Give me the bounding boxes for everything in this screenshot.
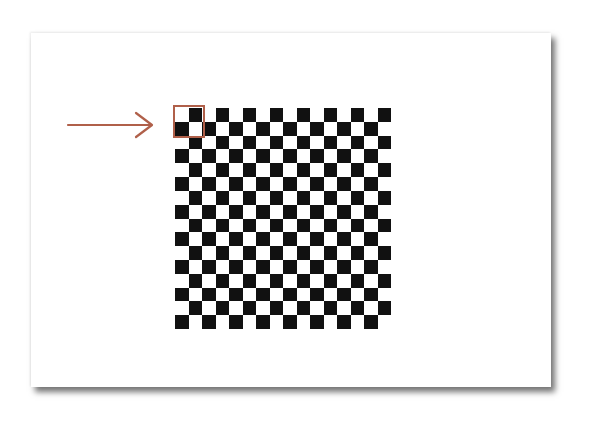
checker-cell	[283, 246, 297, 260]
checker-cell	[189, 177, 203, 191]
checker-cell	[256, 149, 270, 163]
checker-cell	[229, 108, 243, 122]
checker-cell	[216, 288, 230, 302]
checker-cell	[283, 108, 297, 122]
checker-cell	[351, 191, 365, 205]
checker-cell	[351, 288, 365, 302]
checker-cell	[189, 191, 203, 205]
checker-cell	[310, 315, 324, 329]
checker-cell	[202, 122, 216, 136]
checker-cell	[189, 301, 203, 315]
checker-cell	[310, 177, 324, 191]
checker-cell	[378, 301, 392, 315]
checker-cell	[297, 232, 311, 246]
checkerboard-grid	[175, 108, 391, 329]
checker-cell	[270, 274, 284, 288]
checker-cell	[243, 149, 257, 163]
checker-cell	[324, 288, 338, 302]
checker-cell	[364, 136, 378, 150]
checker-cell	[243, 301, 257, 315]
checker-cell	[216, 191, 230, 205]
checker-cell	[175, 191, 189, 205]
checker-cell	[351, 232, 365, 246]
checker-cell	[337, 260, 351, 274]
checker-cell	[297, 288, 311, 302]
checker-cell	[175, 108, 189, 122]
checker-cell	[270, 301, 284, 315]
checker-cell	[351, 149, 365, 163]
checker-cell	[297, 246, 311, 260]
checker-cell	[297, 315, 311, 329]
checker-cell	[337, 288, 351, 302]
checker-cell	[351, 122, 365, 136]
checker-cell	[324, 274, 338, 288]
checker-cell	[256, 219, 270, 233]
checker-cell	[364, 191, 378, 205]
checker-cell	[189, 232, 203, 246]
checker-cell	[337, 274, 351, 288]
checker-cell	[297, 136, 311, 150]
checker-cell	[378, 191, 392, 205]
checker-cell	[337, 163, 351, 177]
arrow-right-icon	[66, 110, 156, 140]
checker-cell	[324, 108, 338, 122]
checker-cell	[175, 149, 189, 163]
checker-cell	[189, 122, 203, 136]
checker-cell	[243, 219, 257, 233]
checker-cell	[216, 260, 230, 274]
checker-cell	[229, 315, 243, 329]
checker-cell	[351, 108, 365, 122]
checker-cell	[175, 232, 189, 246]
checker-cell	[310, 288, 324, 302]
checker-cell	[310, 136, 324, 150]
checker-cell	[283, 301, 297, 315]
checker-cell	[256, 232, 270, 246]
checker-cell	[243, 205, 257, 219]
checker-cell	[270, 219, 284, 233]
checker-cell	[175, 177, 189, 191]
checker-cell	[310, 122, 324, 136]
checker-cell	[216, 219, 230, 233]
checker-cell	[337, 315, 351, 329]
checker-cell	[324, 136, 338, 150]
checker-cell	[351, 136, 365, 150]
checker-cell	[202, 205, 216, 219]
checker-cell	[243, 246, 257, 260]
checker-cell	[189, 315, 203, 329]
checker-cell	[351, 163, 365, 177]
checker-cell	[297, 205, 311, 219]
checker-cell	[297, 177, 311, 191]
checker-cell	[189, 288, 203, 302]
checker-cell	[256, 274, 270, 288]
checker-cell	[229, 163, 243, 177]
checker-cell	[378, 205, 392, 219]
checker-cell	[189, 274, 203, 288]
checker-cell	[364, 288, 378, 302]
checker-cell	[243, 108, 257, 122]
checker-cell	[256, 315, 270, 329]
checker-cell	[297, 122, 311, 136]
checker-cell	[175, 246, 189, 260]
checker-cell	[351, 260, 365, 274]
checker-cell	[324, 260, 338, 274]
checker-cell	[378, 177, 392, 191]
checker-cell	[297, 149, 311, 163]
checker-cell	[297, 108, 311, 122]
checker-cell	[324, 163, 338, 177]
checker-cell	[189, 260, 203, 274]
checker-cell	[337, 205, 351, 219]
checker-cell	[216, 205, 230, 219]
checker-cell	[216, 122, 230, 136]
checker-cell	[216, 301, 230, 315]
checker-cell	[202, 288, 216, 302]
checker-cell	[364, 149, 378, 163]
checker-cell	[202, 301, 216, 315]
checker-cell	[189, 108, 203, 122]
checker-cell	[297, 301, 311, 315]
checker-cell	[351, 246, 365, 260]
checker-cell	[337, 191, 351, 205]
checker-cell	[256, 205, 270, 219]
checker-cell	[364, 260, 378, 274]
checker-cell	[202, 163, 216, 177]
checker-cell	[229, 122, 243, 136]
